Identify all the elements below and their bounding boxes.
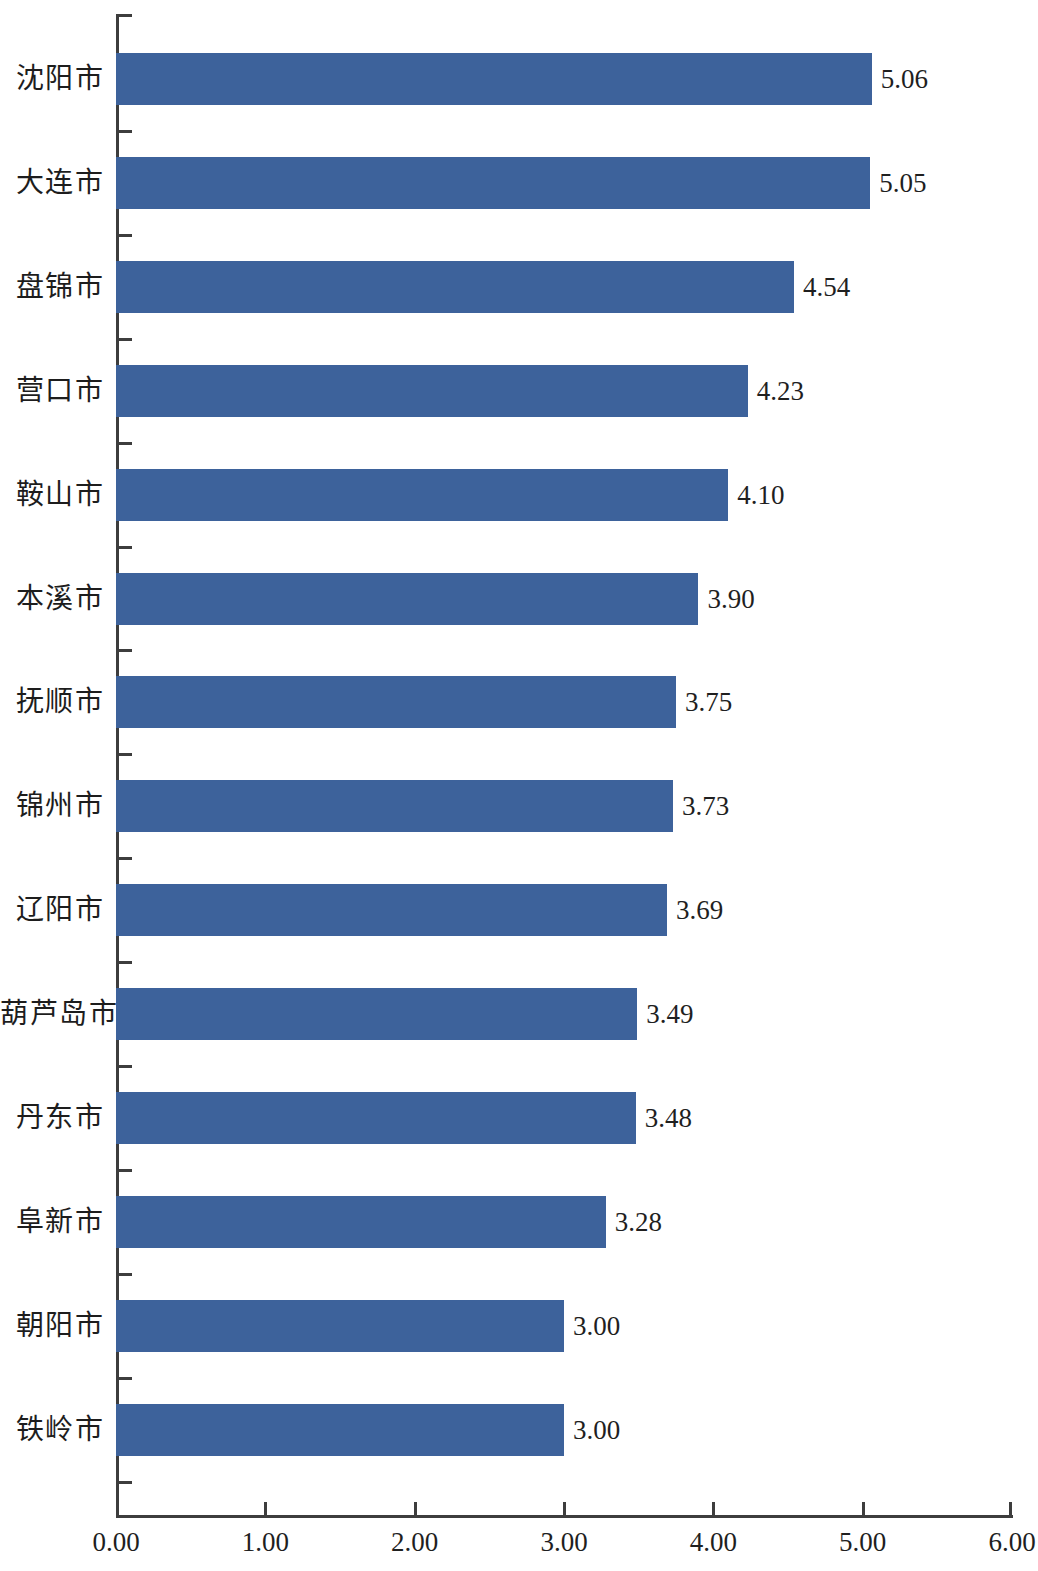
bar-value-label: 3.49 [637,988,693,1040]
x-axis-tick [712,1502,715,1515]
bar-row: 大连市5.05 [0,157,1038,209]
y-axis-tick [116,130,132,133]
y-axis-tick [116,234,132,237]
y-axis-tick [116,753,132,756]
bar-row: 沈阳市5.06 [0,53,1038,105]
plot-area: 沈阳市5.06大连市5.05盘锦市4.54营口市4.23鞍山市4.10本溪市3.… [0,0,1038,1571]
y-axis-tick [116,442,132,445]
y-axis-tick [116,1273,132,1276]
bar [116,1404,564,1456]
bar-value-label: 5.06 [872,53,928,105]
y-axis-tick [116,1065,132,1068]
x-axis-tick-label: 1.00 [242,1527,289,1558]
bar-row: 阜新市3.28 [0,1196,1038,1248]
category-label: 大连市 [0,157,104,209]
bar-value-label: 3.48 [636,1092,692,1144]
bar-row: 葫芦岛市3.49 [0,988,1038,1040]
y-axis-tick [116,546,132,549]
x-axis-tick [116,1502,119,1515]
category-label: 铁岭市 [0,1404,104,1456]
bar-row: 铁岭市3.00 [0,1404,1038,1456]
category-label: 沈阳市 [0,53,104,105]
x-axis-tick [264,1502,267,1515]
x-axis-tick [1009,1502,1012,1515]
bar-value-label: 3.00 [564,1404,620,1456]
bar-value-label: 3.73 [673,780,729,832]
y-axis-tick [116,1169,132,1172]
category-label: 丹东市 [0,1092,104,1144]
bar [116,53,872,105]
bar [116,780,673,832]
bar-row: 盘锦市4.54 [0,261,1038,313]
bar-row: 丹东市3.48 [0,1092,1038,1144]
y-axis-tick [116,857,132,860]
bar-row: 本溪市3.90 [0,573,1038,625]
y-axis-tick [116,1481,132,1484]
bar-value-label: 4.10 [728,469,784,521]
x-axis-line [116,1515,1013,1518]
x-axis-tick [563,1502,566,1515]
y-axis-tick [116,338,132,341]
bar-value-label: 3.28 [606,1196,662,1248]
category-label: 抚顺市 [0,676,104,728]
bar [116,469,728,521]
bar [116,988,637,1040]
bar-row: 朝阳市3.00 [0,1300,1038,1352]
category-label: 葫芦岛市 [0,988,104,1040]
bar [116,573,698,625]
bar [116,157,870,209]
x-axis-tick-label: 6.00 [988,1527,1035,1558]
category-label: 营口市 [0,365,104,417]
bar-value-label: 4.23 [748,365,804,417]
category-label: 锦州市 [0,780,104,832]
category-label: 辽阳市 [0,884,104,936]
category-label: 朝阳市 [0,1300,104,1352]
category-label: 本溪市 [0,573,104,625]
y-axis-tick [116,1377,132,1380]
bar-value-label: 4.54 [794,261,850,313]
x-axis-tick-label: 5.00 [839,1527,886,1558]
y-axis-line [116,14,119,1518]
x-axis-tick [862,1502,865,1515]
bar-row: 辽阳市3.69 [0,884,1038,936]
bar [116,676,676,728]
y-axis-tick [116,961,132,964]
bar-row: 锦州市3.73 [0,780,1038,832]
bar-row: 鞍山市4.10 [0,469,1038,521]
bar-value-label: 3.69 [667,884,723,936]
category-label: 阜新市 [0,1196,104,1248]
bar-value-label: 3.75 [676,676,732,728]
category-label: 鞍山市 [0,469,104,521]
bar [116,884,667,936]
y-axis-tick [116,14,132,17]
x-axis-tick-label: 2.00 [391,1527,438,1558]
x-axis-tick-label: 4.00 [690,1527,737,1558]
bar-value-label: 3.90 [698,573,754,625]
bar-value-label: 5.05 [870,157,926,209]
bar [116,1196,606,1248]
x-axis-tick-label: 3.00 [540,1527,587,1558]
bar-row: 营口市4.23 [0,365,1038,417]
bar [116,261,794,313]
y-axis-tick [116,649,132,652]
bar [116,1092,636,1144]
x-axis-tick-label: 0.00 [92,1527,139,1558]
x-axis-tick [414,1502,417,1515]
bar-chart: 沈阳市5.06大连市5.05盘锦市4.54营口市4.23鞍山市4.10本溪市3.… [0,0,1038,1571]
bar-value-label: 3.00 [564,1300,620,1352]
bar [116,1300,564,1352]
category-label: 盘锦市 [0,261,104,313]
bar-row: 抚顺市3.75 [0,676,1038,728]
bar [116,365,748,417]
